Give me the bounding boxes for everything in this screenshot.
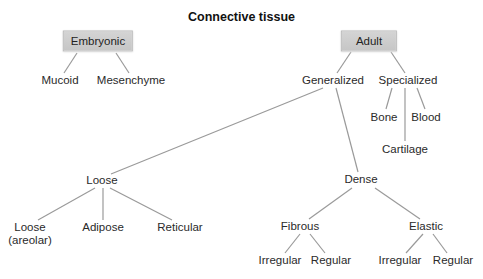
node-dense: Dense xyxy=(344,173,377,186)
node-adult: Adult xyxy=(341,31,397,52)
edge-specialized-blood xyxy=(417,88,425,109)
edge-fibrous-irregular xyxy=(285,234,300,253)
node-fibrous-irregular: Irregular xyxy=(259,254,302,267)
node-generalized: Generalized xyxy=(302,74,364,87)
edge-generalized-loose xyxy=(111,88,323,174)
node-elastic: Elastic xyxy=(409,220,443,233)
node-bone: Bone xyxy=(371,111,398,124)
edge-elastic-irregular xyxy=(406,234,423,253)
node-adipose: Adipose xyxy=(82,221,124,234)
node-loose-areolar: Loose (areolar) xyxy=(8,221,51,247)
edge-loose-reticular xyxy=(110,188,172,220)
edge-generalized-dense xyxy=(336,88,358,172)
edge-specialized-bone xyxy=(386,88,392,109)
edge-loose-areolar xyxy=(38,188,95,220)
node-loose-areolar-line2: (areolar) xyxy=(8,234,51,247)
node-mucoid: Mucoid xyxy=(41,74,78,87)
node-embryonic: Embryonic xyxy=(63,31,133,52)
edge-fibrous-regular xyxy=(310,234,325,253)
edge-adult-specialized xyxy=(391,52,405,73)
node-fibrous: Fibrous xyxy=(281,220,319,233)
edge-dense-fibrous xyxy=(309,188,352,219)
node-specialized: Specialized xyxy=(379,74,438,87)
node-mesenchyme: Mesenchyme xyxy=(97,74,165,87)
edge-dense-elastic xyxy=(375,188,420,219)
diagram-title: Connective tissue xyxy=(0,10,483,24)
node-cartilage: Cartilage xyxy=(382,143,428,156)
node-elastic-irregular: Irregular xyxy=(379,254,422,267)
edge-embryonic-mucoid xyxy=(64,53,77,73)
node-reticular: Reticular xyxy=(157,221,202,234)
edge-embryonic-mesenchyme xyxy=(116,53,129,73)
edge-adult-generalized xyxy=(337,52,351,73)
edge-elastic-regular xyxy=(433,234,447,253)
connective-tissue-diagram: Connective tissue Embryonic Mucoid Mesen… xyxy=(0,0,483,279)
node-elastic-regular: Regular xyxy=(433,254,473,267)
node-fibrous-regular: Regular xyxy=(311,254,351,267)
node-loose-areolar-line1: Loose xyxy=(8,221,51,234)
node-loose: Loose xyxy=(86,174,117,187)
node-blood: Blood xyxy=(411,111,440,124)
